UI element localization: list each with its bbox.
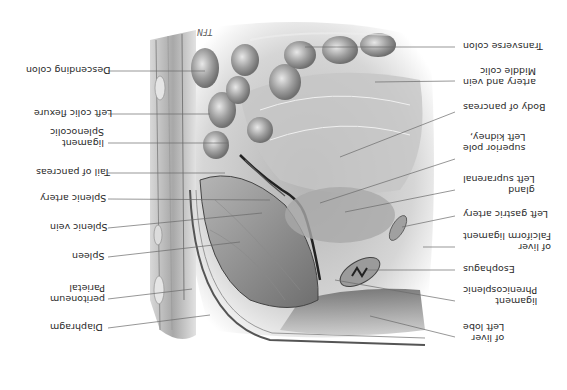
label-esophagus: Esophagus	[463, 264, 515, 275]
label-falciform-ligament: of liver Falciform ligament	[463, 231, 551, 253]
label-tail-of-pancreas: Tail of pancreas	[36, 167, 110, 178]
artist-signature: TFN	[197, 27, 212, 36]
label-spleen: Spleen	[72, 251, 104, 262]
label-descending-colon: Descending colon	[26, 65, 110, 76]
label-transverse-colon: Transverse colon	[463, 41, 543, 52]
label-parietal-peritoneum: peritoneum Parietal	[50, 283, 105, 305]
label-splenic-vein: Splenic vein	[50, 222, 108, 233]
label-splenocolic-ligament: ligament Splenocolic	[50, 127, 104, 149]
label-left-lobe-of-liver: of liver Left lobe	[463, 322, 504, 344]
label-left-colic-flexure: Left colic flexure	[34, 108, 112, 119]
label-left-suprarenal-gland: gland Left suprarenal	[463, 174, 535, 196]
label-splenic-artery: Splenic artery	[40, 193, 106, 204]
label-body-of-pancreas: Body of pancreas	[463, 102, 546, 113]
label-phrenicosplenic-ligament: ligament Phrenicosplenic	[463, 285, 537, 307]
label-left-kidney-superior-pole: superior pole Left kidney,	[463, 132, 525, 154]
label-middle-colic-artery-vein: artery and vein Middle colic	[463, 66, 536, 88]
label-diaphragm: Diaphragm	[50, 322, 103, 333]
label-left-gastric-artery: Left gastric artery	[463, 209, 548, 220]
anatomy-figure: TFN Descending colon Left colic flexure …	[0, 0, 567, 390]
